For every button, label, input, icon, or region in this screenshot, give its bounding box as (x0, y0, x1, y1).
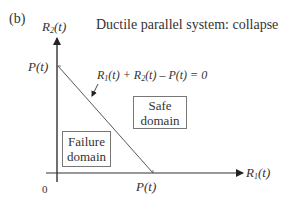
panel-label: (b) (9, 12, 25, 26)
safe-domain-box: Safe domain (133, 96, 187, 129)
y-intercept-label: P(t) (28, 60, 48, 73)
origin-label: 0 (42, 184, 48, 195)
safe-domain-line1: Safe (134, 98, 186, 113)
x-axis-label: R1(t) (246, 166, 270, 181)
failure-domain-line2: domain (63, 149, 110, 164)
equation-leader (92, 84, 98, 96)
y-axis-label: R2(t) (42, 20, 66, 35)
failure-domain-line1: Failure (63, 134, 110, 149)
safe-domain-line2: domain (134, 113, 186, 128)
diagram-title: Ductile parallel system: collapse (96, 18, 278, 32)
limit-state-equation: R1(t) + R2(t) – P(t) = 0 (97, 69, 207, 83)
x-intercept-label: P(t) (136, 180, 156, 193)
diagram-canvas: (b) Ductile parallel system: collapse R2… (0, 0, 288, 203)
failure-domain-box: Failure domain (62, 131, 111, 167)
